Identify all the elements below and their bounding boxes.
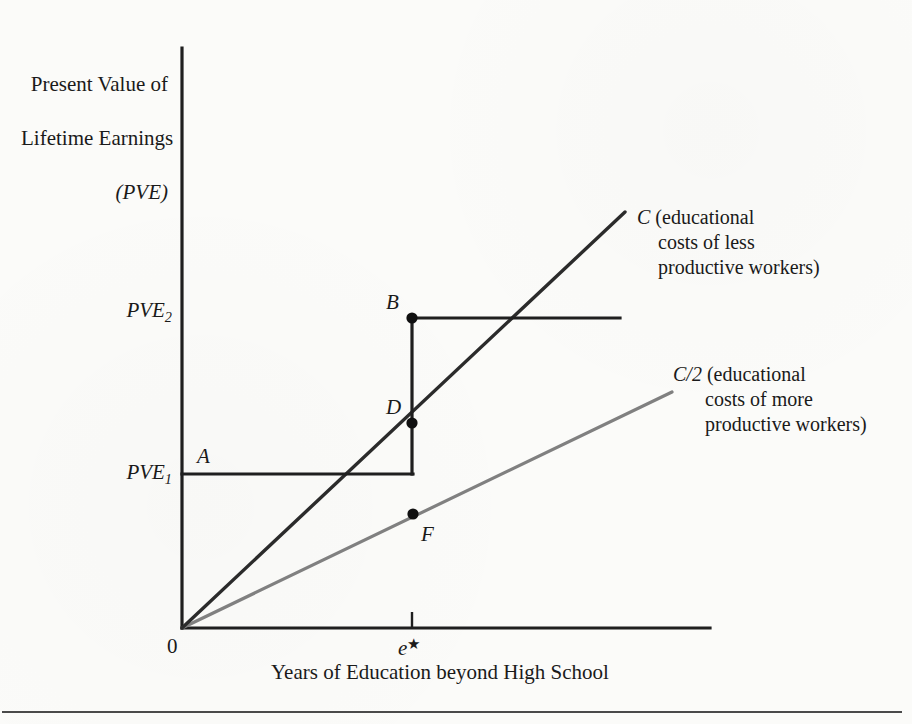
x-tick-label-origin: 0 [167,636,178,657]
y-tick-pve1-text: PVE [126,460,164,484]
y-tick-label-pve2: PVE2 [40,300,172,324]
x-tick-label-e-star: e★ [398,637,420,659]
curve-annotation-c-half-line3: productive workers) [673,412,912,437]
y-tick-label-pve1: PVE1 [40,462,172,486]
y-axis-title-line2: Lifetime Earnings [21,126,173,150]
bottom-divider [2,711,902,713]
y-tick-pve1-subscript: 1 [165,471,172,487]
x-axis-title: Years of Education beyond High School [170,662,710,683]
curve-annotation-c-line2: costs of less [637,230,899,255]
y-tick-pve2-text: PVE [126,298,164,322]
signaling-model-figure: Present Value of Lifetime Earnings (PVE)… [0,0,912,724]
x-tick-e-text: e [398,636,407,660]
point-label-d: D [386,397,401,418]
point-label-a: A [197,446,210,467]
y-tick-pve2-subscript: 2 [165,309,172,325]
curve-annotation-c-line1: (educational [650,206,754,228]
star-icon: ★ [407,636,420,652]
curve-annotation-c-half-head: C/2 [673,363,702,385]
y-axis-title-line1: Present Value of [31,72,168,96]
curve-annotation-cost-less-productive: C (educationalcosts of lessproductive wo… [637,205,899,280]
curve-annotation-c-head: C [637,206,650,228]
point-label-b: B [386,292,399,313]
y-axis-title: Present Value of Lifetime Earnings (PVE) [0,44,168,233]
curve-annotation-c-line3: productive workers) [637,255,899,280]
curve-cost-more-productive [182,392,672,628]
point-marker-b [406,312,417,323]
curve-annotation-cost-more-productive: C/2 (educationalcosts of moreproductive … [673,362,912,437]
point-marker-d [406,417,417,428]
curve-annotation-c-half-line2: costs of more [673,387,912,412]
y-axis-title-line3: (PVE) [116,180,168,204]
curve-annotation-c-half-line1: (educational [702,363,806,385]
point-marker-f [407,508,418,519]
curve-cost-less-productive [182,212,625,628]
point-label-f: F [421,524,434,545]
